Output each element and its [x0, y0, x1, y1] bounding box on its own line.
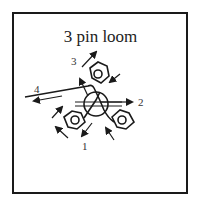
label-3: 3 — [71, 55, 77, 67]
loom-illustration — [0, 0, 201, 206]
label-4: 4 — [34, 83, 40, 95]
pin-right — [112, 110, 134, 129]
label-2: 2 — [138, 96, 144, 108]
label-1: 1 — [82, 140, 88, 152]
pin-top — [90, 62, 109, 83]
pin-left — [64, 111, 85, 129]
